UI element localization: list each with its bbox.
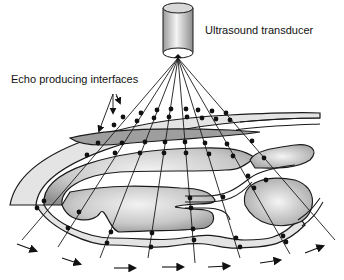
- diagram-canvas: [0, 0, 344, 280]
- transducer-cylinder-icon: [163, 3, 193, 58]
- interfaces-label: Echo producing interfaces: [11, 73, 138, 85]
- transducer-label: Ultrasound transducer: [205, 24, 313, 36]
- double-arrow-icon: [99, 94, 120, 131]
- right-arrow-icon: [17, 244, 323, 268]
- ultrasound-diagram: Ultrasound transducer Echo producing int…: [0, 0, 344, 280]
